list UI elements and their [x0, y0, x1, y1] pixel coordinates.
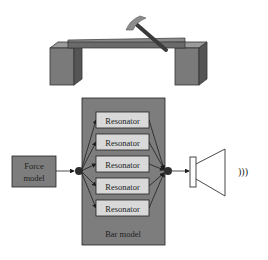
resonator-label: Resonator — [105, 204, 140, 214]
resonator-label: Resonator — [105, 138, 140, 148]
struck-bar — [68, 38, 185, 48]
diagram-canvas: Force model Bar model Resonator Resonato… — [0, 0, 268, 260]
split-node — [75, 167, 83, 175]
force-model-label-line2: model — [23, 173, 45, 183]
resonator-4: Resonator — [96, 178, 149, 194]
speaker-icon — [190, 149, 225, 196]
bar-illustration — [50, 16, 207, 85]
resonator-label: Resonator — [105, 182, 140, 192]
resonator-label: Resonator — [105, 160, 140, 170]
right-support — [175, 42, 207, 85]
resonator-2: Resonator — [96, 134, 149, 150]
left-support — [50, 42, 82, 85]
resonator-3: Resonator — [96, 156, 149, 172]
resonator-list: Resonator Resonator Resonator Resonator … — [96, 112, 149, 216]
sound-waves-icon: ))) — [238, 166, 248, 178]
force-model-label-line1: Force — [24, 161, 44, 171]
resonator-label: Resonator — [105, 116, 140, 126]
resonator-1: Resonator — [96, 112, 149, 128]
force-model-block: Force model — [12, 156, 56, 187]
bar-model-label: Bar model — [105, 229, 141, 239]
resonator-5: Resonator — [96, 200, 149, 216]
sum-node — [164, 167, 172, 175]
